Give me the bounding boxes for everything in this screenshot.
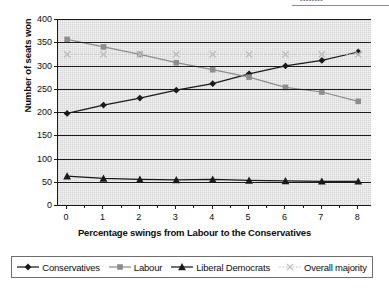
y-tick-mark xyxy=(54,112,58,113)
data-point-diamond xyxy=(64,110,71,117)
x-tick-mark xyxy=(357,205,358,209)
page-header-fragment: ▪▪▪▪▪▪▪▪ xyxy=(300,0,380,2)
data-point-square xyxy=(319,89,325,95)
x-minor-tick-mark xyxy=(193,205,194,208)
gridline xyxy=(58,182,371,183)
legend-item-overall-majority[interactable]: Overall majority xyxy=(279,262,367,273)
x-axis-title: Percentage swings from Labour to the Con… xyxy=(0,227,389,238)
plot-area xyxy=(57,19,371,205)
line-chart: Number of seats won 40035030025020015010… xyxy=(0,8,389,254)
page-header-rule xyxy=(292,5,389,6)
x-tick-label: 6 xyxy=(272,211,296,223)
y-tick-label: 200 xyxy=(26,108,52,117)
legend-item-labour[interactable]: Labour xyxy=(109,262,162,273)
x-tick-mark xyxy=(175,205,176,209)
data-point-square xyxy=(117,264,123,270)
gridline xyxy=(58,19,371,20)
x-minor-tick-mark xyxy=(303,205,304,208)
x-minor-tick-mark xyxy=(339,205,340,208)
x-tick-mark xyxy=(212,205,213,209)
y-tick-label: 50 xyxy=(26,177,52,186)
data-point-diamond xyxy=(209,80,216,87)
data-point-square xyxy=(101,44,107,50)
y-tick-label: 0 xyxy=(26,201,52,210)
legend-label: Overall majority xyxy=(304,262,367,273)
x-tick-mark xyxy=(102,205,103,209)
y-tick-mark xyxy=(54,42,58,43)
x-axis-tick-labels: 012345678 xyxy=(57,211,370,225)
data-point-diamond xyxy=(25,264,32,271)
x-minor-tick-mark xyxy=(266,205,267,208)
y-tick-mark xyxy=(54,135,58,136)
y-tick-label: 400 xyxy=(26,15,52,24)
x-tick-label: 2 xyxy=(127,211,151,223)
series-liberal-democrats xyxy=(63,172,362,184)
data-point-square xyxy=(355,99,361,105)
x-tick-mark xyxy=(284,205,285,209)
x-tick-label: 4 xyxy=(200,211,224,223)
data-point-diamond xyxy=(318,57,325,64)
x-tick-mark xyxy=(139,205,140,209)
legend-label: Liberal Democrats xyxy=(196,262,270,273)
gridline xyxy=(58,135,371,136)
x-tick-label: 7 xyxy=(309,211,333,223)
data-point-cross xyxy=(287,264,293,270)
legend-key-square-icon xyxy=(109,262,131,272)
gridline xyxy=(58,66,371,67)
x-tick-mark xyxy=(321,205,322,209)
data-point-diamond xyxy=(100,102,107,109)
x-tick-label: 5 xyxy=(236,211,260,223)
x-axis-line xyxy=(57,205,371,206)
y-tick-label: 300 xyxy=(26,61,52,70)
series-overall-majority xyxy=(64,51,361,57)
data-point-square xyxy=(246,74,252,80)
y-tick-mark xyxy=(54,182,58,183)
legend-key-diamond-icon xyxy=(17,262,39,272)
y-tick-mark xyxy=(54,89,58,90)
legend-label: Conservatives xyxy=(42,262,100,273)
y-tick-mark xyxy=(54,19,58,20)
x-tick-label: 8 xyxy=(345,211,369,223)
y-tick-label: 150 xyxy=(26,131,52,140)
legend-label: Labour xyxy=(134,262,162,273)
legend-item-conservatives[interactable]: Conservatives xyxy=(17,262,100,273)
data-point-cross xyxy=(64,51,70,57)
legend-item-liberal-democrats[interactable]: Liberal Democrats xyxy=(171,262,270,273)
series-conservatives xyxy=(64,49,362,117)
y-tick-mark xyxy=(54,159,58,160)
gridline xyxy=(58,159,371,160)
data-point-square xyxy=(210,67,216,73)
y-tick-mark xyxy=(54,66,58,67)
y-tick-label: 100 xyxy=(26,154,52,163)
x-tick-label: 1 xyxy=(90,211,114,223)
x-minor-tick-mark xyxy=(230,205,231,208)
x-minor-tick-mark xyxy=(157,205,158,208)
x-tick-mark xyxy=(66,205,67,209)
series-labour xyxy=(64,37,361,104)
x-tick-label: 0 xyxy=(54,211,78,223)
y-tick-label: 250 xyxy=(26,84,52,93)
x-minor-tick-mark xyxy=(84,205,85,208)
data-point-diamond xyxy=(136,95,143,102)
y-axis-tick-labels: 400350300250200150100500 xyxy=(24,8,52,254)
x-tick-label: 3 xyxy=(163,211,187,223)
x-minor-tick-mark xyxy=(121,205,122,208)
gridline xyxy=(58,89,371,90)
x-tick-mark xyxy=(248,205,249,209)
data-point-cross xyxy=(282,51,288,57)
legend-key-triangle-icon xyxy=(171,262,193,272)
data-point-diamond xyxy=(173,87,180,94)
legend-key-cross-icon xyxy=(279,262,301,272)
gridline xyxy=(58,112,371,113)
y-tick-label: 350 xyxy=(26,38,52,47)
page-header-fragment-text: ▪▪▪▪▪▪▪▪ xyxy=(300,0,380,2)
chart-legend: ConservativesLabourLiberal DemocratsOver… xyxy=(11,256,373,278)
gridline xyxy=(58,42,371,43)
